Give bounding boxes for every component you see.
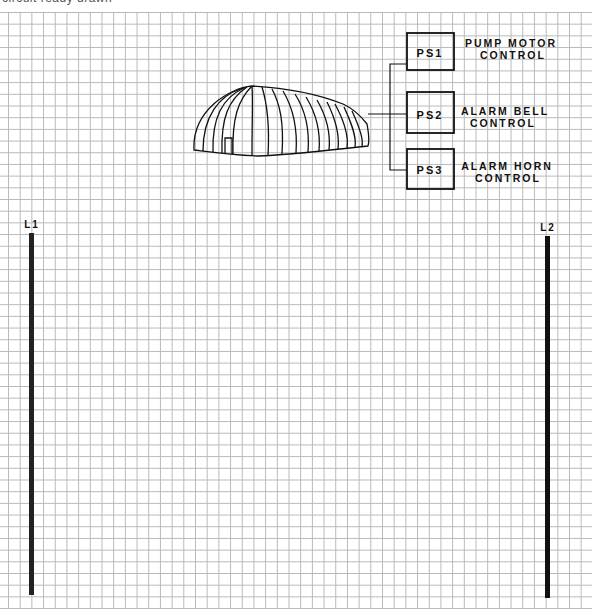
circuit-diagram: PS1 PUMP MOTOR CONTROL PS2 ALARM BELL CO… (0, 0, 592, 609)
switch-ps3-label-line2: CONTROL (475, 172, 541, 184)
switch-ps2-label-line1: ALARM BELL (461, 105, 549, 117)
switch-ps3-id: PS3 (417, 164, 444, 176)
switch-ps1-id: PS1 (417, 47, 444, 59)
rail-l1-label: L1 (24, 219, 40, 230)
switch-ps2-id: PS2 (417, 109, 444, 121)
switch-ps3[interactable]: PS3 (407, 149, 454, 189)
switch-ps1-label-line1: PUMP MOTOR (465, 37, 557, 49)
switch-ps2-label-line2: CONTROL (470, 117, 536, 129)
rail-l2 (545, 236, 550, 598)
building-icon (194, 86, 369, 156)
rail-l1 (29, 233, 34, 595)
switch-ps2[interactable]: PS2 (407, 92, 454, 133)
wiring (368, 64, 406, 170)
switch-ps3-label-line1: ALARM HORN (461, 160, 553, 172)
rail-l2-label: L2 (540, 222, 556, 233)
switch-ps1[interactable]: PS1 (407, 33, 454, 70)
switch-ps1-label-line2: CONTROL (480, 49, 546, 61)
